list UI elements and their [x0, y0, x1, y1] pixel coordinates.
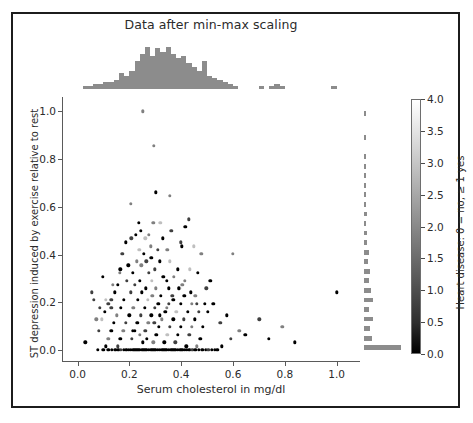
scatter-point: [159, 221, 162, 224]
scatter-point: [97, 329, 100, 332]
scatter-point: [195, 302, 198, 305]
histogram-bar: [364, 164, 366, 169]
scatter-point: [154, 191, 157, 194]
scatter-point: [96, 348, 99, 351]
scatter-point: [119, 306, 122, 309]
scatter-point: [137, 221, 140, 224]
scatter-point: [167, 302, 170, 305]
scatter-point: [161, 237, 164, 240]
scatter-point: [216, 348, 219, 351]
scatter-point: [113, 291, 116, 294]
x-tick-mark: [233, 362, 234, 366]
scatter-point: [140, 264, 143, 267]
y-tick-mark: [58, 350, 62, 351]
scatter-point: [129, 202, 132, 205]
histogram-bar: [364, 221, 366, 226]
scatter-point: [182, 318, 185, 321]
histogram-bar: [364, 269, 370, 274]
scatter-point: [138, 333, 141, 336]
scatter-point: [151, 294, 154, 297]
scatter-point: [153, 306, 156, 309]
histogram-bar: [364, 154, 366, 159]
scatter-point: [111, 283, 114, 286]
scatter-point: [129, 291, 132, 294]
scatter-point: [156, 302, 159, 305]
scatter-point: [138, 248, 141, 251]
x-tick-mark: [181, 362, 182, 366]
scatter-point: [267, 337, 270, 340]
scatter-point: [168, 194, 171, 197]
scatter-point: [156, 248, 159, 251]
scatter-point: [147, 321, 150, 324]
x-axis-title: Serum cholesterol in mg/dl: [62, 383, 360, 396]
scatter-point: [190, 325, 193, 328]
scatter-point: [134, 233, 137, 236]
scatter-point: [175, 310, 178, 313]
x-tick-label: 0.8: [276, 368, 293, 380]
scatter-point: [131, 271, 134, 274]
scatter-point: [209, 279, 212, 282]
scatter-point: [181, 283, 184, 286]
scatter-point: [200, 252, 203, 255]
scatter-point: [144, 287, 147, 290]
x-tick-mark: [285, 362, 286, 366]
scatter-point: [174, 341, 177, 344]
scatter-point: [145, 337, 148, 340]
scatter-point: [166, 248, 169, 251]
scatter-point: [110, 306, 113, 309]
scatter-point: [141, 110, 144, 113]
histogram-bar: [364, 307, 369, 312]
scatter-point: [188, 333, 191, 336]
scatter-point: [144, 329, 147, 332]
scatter-point: [118, 271, 121, 274]
scatter-point: [293, 341, 296, 344]
scatter-point: [197, 310, 200, 313]
colorbar-tick-label: 2.5: [427, 189, 444, 201]
y-tick-label: 0.8: [39, 153, 56, 165]
scatter-point: [171, 318, 174, 321]
x-axis-tick-labels: 0.00.20.40.60.81.0: [62, 362, 360, 384]
scatter-point: [152, 341, 155, 344]
scatter-point: [189, 291, 192, 294]
scatter-point: [136, 298, 139, 301]
scatter-point: [136, 321, 139, 324]
scatter-point: [142, 252, 145, 255]
scatter-point: [220, 345, 223, 348]
scatter-point: [116, 283, 119, 286]
scatter-point: [180, 245, 183, 248]
scatter-point: [90, 291, 93, 294]
scatter-point: [203, 302, 206, 305]
scatter-point: [238, 329, 241, 332]
scatter-point: [139, 314, 142, 317]
scatter-point: [194, 294, 197, 297]
scatter-point: [158, 260, 161, 263]
scatter-point: [132, 306, 135, 309]
scatter-point: [144, 237, 147, 240]
histogram-bar: [364, 183, 366, 188]
histogram-bar: [364, 345, 401, 350]
scatter-point: [106, 302, 109, 305]
colorbar-tick-label: 3.0: [427, 157, 444, 169]
scatter-point: [119, 267, 122, 270]
y-tick-label: 1.0: [39, 105, 56, 117]
colorbar-tick-label: 2.0: [427, 221, 444, 233]
x-tick-label: 0.6: [225, 368, 242, 380]
y-tick-mark: [58, 207, 62, 208]
scatter-point: [140, 291, 143, 294]
histogram-bar: [364, 192, 366, 197]
scatter-point: [172, 298, 175, 301]
scatter-point: [193, 318, 196, 321]
scatter-point: [98, 306, 101, 309]
histogram-bar: [364, 202, 366, 207]
scatter-point: [95, 318, 98, 321]
histogram-bar: [331, 86, 336, 89]
histogram-bar: [233, 86, 238, 89]
x-tick-label: 0.2: [121, 368, 138, 380]
scatter-point: [122, 298, 125, 301]
y-tick-mark: [58, 302, 62, 303]
scatter-points-layer: [62, 97, 360, 362]
scatter-point: [133, 283, 136, 286]
scatter-point: [188, 267, 191, 270]
y-tick-label: 0.2: [39, 296, 56, 308]
scatter-point: [135, 260, 138, 263]
